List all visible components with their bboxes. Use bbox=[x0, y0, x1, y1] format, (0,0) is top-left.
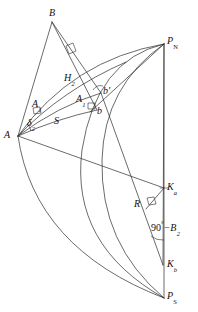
label-R: R bbox=[134, 199, 140, 209]
label-Ka: Ka bbox=[167, 182, 177, 195]
label-vertex-B: B bbox=[49, 8, 55, 18]
meridian-circle-through-b bbox=[102, 44, 164, 298]
label-point-b: b bbox=[97, 106, 102, 116]
line-B-to-A bbox=[18, 22, 52, 136]
label-delta2: δ2 bbox=[27, 118, 35, 131]
label-H2: H2 bbox=[64, 73, 74, 86]
label-side-S: S bbox=[54, 116, 59, 126]
arc-A-to-PN bbox=[18, 44, 164, 136]
label-Kb: Kb bbox=[167, 259, 177, 272]
label-vertex-A: A bbox=[4, 130, 10, 140]
right-angle-marker-at-R bbox=[147, 197, 156, 205]
label-A1-right: A1 bbox=[76, 94, 85, 107]
label-A1-left: A1 bbox=[32, 99, 41, 112]
line-A-to-Ka bbox=[18, 136, 164, 188]
label-pole-south: PS bbox=[167, 291, 177, 304]
line-Ka-to-R-foot bbox=[146, 188, 164, 209]
line-b-prime-to-Kb bbox=[101, 93, 163, 265]
line-B-to-b-prime bbox=[52, 22, 101, 93]
label-point-b-prime: b′ bbox=[103, 86, 110, 96]
label-pole-north: PN bbox=[167, 36, 178, 49]
line-B-to-b bbox=[52, 22, 97, 110]
angle-arc-A1-at-b-prime bbox=[93, 86, 103, 90]
arc-A-to-PS bbox=[18, 136, 164, 298]
diagram-canvas: B A PN PS b′ b H2 A1 A1 S δ2 Ka Kb R 90°… bbox=[0, 0, 198, 312]
label-angle-90-minus-B2: 90°−B2 bbox=[151, 222, 180, 236]
line-PN-to-b bbox=[90, 44, 164, 112]
